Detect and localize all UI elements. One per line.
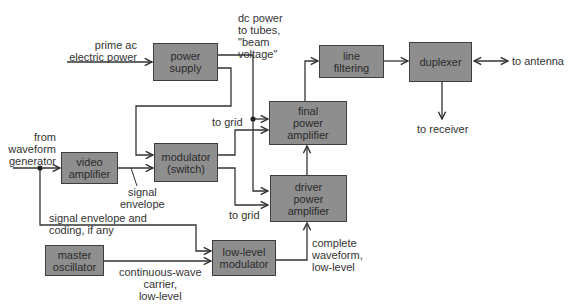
- video-amplifier-block: video amplifier: [61, 152, 118, 184]
- to-receiver-label: to receiver: [417, 123, 468, 135]
- modulator-block: modulator (switch): [154, 143, 218, 182]
- junction-dot-dc: [250, 116, 255, 121]
- from-waveform-label: from waveform generator: [8, 131, 56, 167]
- block-diagram: power supply video amplifier modulator (…: [0, 0, 570, 306]
- duplexer-block: duplexer: [409, 42, 472, 82]
- to-antenna-label: to antenna: [512, 55, 564, 67]
- to-grid-upper-label: to grid: [212, 116, 243, 128]
- cw-carrier-label: continuous-wave carrier, low-level: [119, 266, 202, 302]
- dc-power-label: dc power to tubes, "beam voltage": [238, 12, 283, 60]
- final-power-amplifier-block: final power amplifier: [269, 101, 347, 145]
- signal-envelope-coding-label: signal envelope and coding, if any: [49, 212, 147, 236]
- master-oscillator-block: master oscillator: [45, 245, 104, 276]
- prime-ac-label: prime ac electric power: [69, 39, 137, 63]
- low-level-modulator-block: low-level modulator: [212, 240, 276, 276]
- signal-envelope-label: signal envelope: [120, 186, 165, 210]
- driver-power-amplifier-block: driver power amplifier: [270, 175, 347, 222]
- complete-waveform-label: complete waveform, low-level: [312, 237, 363, 273]
- to-grid-lower-label: to grid: [229, 209, 260, 221]
- line-filtering-block: line filtering: [319, 45, 384, 78]
- power-supply-block: power supply: [153, 43, 218, 81]
